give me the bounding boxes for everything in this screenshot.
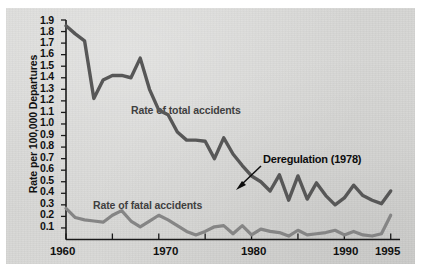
chart-axes	[66, 20, 400, 240]
series-line-fatal-accidents	[66, 208, 391, 236]
series-line-total-accidents	[66, 26, 391, 205]
chart-figure: Rate per 100,000 Departures 1.9 1.8 1.7 …	[0, 0, 421, 276]
chart-plot	[0, 0, 421, 276]
